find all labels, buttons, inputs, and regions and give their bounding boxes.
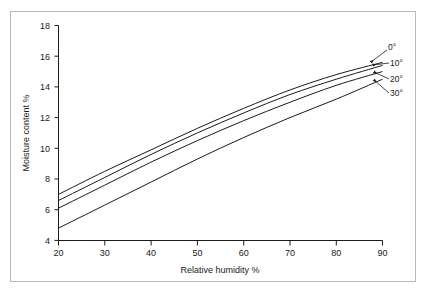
series-annotations: 0° 10° 20° 30° xyxy=(371,42,403,98)
x-tick-label-70: 70 xyxy=(285,248,295,258)
y-axis-tick-labels: 18 16 14 12 10 8 6 4 xyxy=(40,21,50,246)
y-tick-label-18: 18 xyxy=(40,21,50,31)
y-axis-title: Moisture content % xyxy=(21,94,31,171)
y-tick-label-4: 4 xyxy=(45,236,50,246)
x-tick-label-30: 30 xyxy=(100,248,110,258)
x-axis-title: Relative humidity % xyxy=(180,265,259,275)
series-label-30deg: 30° xyxy=(390,88,403,98)
y-tick-label-8: 8 xyxy=(45,174,50,184)
leader-line-30deg xyxy=(374,80,389,93)
series-label-0deg: 0° xyxy=(388,42,396,52)
x-tick-label-60: 60 xyxy=(239,248,249,258)
curve-0deg xyxy=(59,62,383,194)
x-tick-label-80: 80 xyxy=(331,248,341,258)
x-axis-ticks xyxy=(59,241,383,246)
series-label-10deg: 10° xyxy=(390,58,403,68)
leader-line-20deg xyxy=(374,72,389,79)
x-tick-label-50: 50 xyxy=(192,248,202,258)
y-tick-label-16: 16 xyxy=(40,52,50,62)
y-tick-label-6: 6 xyxy=(45,205,50,215)
y-axis-ticks xyxy=(55,26,59,241)
data-curves xyxy=(59,62,383,228)
y-tick-label-14: 14 xyxy=(40,82,50,92)
y-tick-label-12: 12 xyxy=(40,113,50,123)
x-axis-tick-labels: 20 30 40 50 60 70 80 90 xyxy=(53,248,387,258)
moisture-content-vs-relative-humidity-chart: 18 16 14 12 10 8 6 4 20 30 40 50 60 xyxy=(0,0,427,294)
curve-30deg xyxy=(59,79,383,228)
chart-figure: 18 16 14 12 10 8 6 4 20 30 40 50 60 xyxy=(0,0,427,294)
x-tick-label-20: 20 xyxy=(53,248,63,258)
axes xyxy=(59,26,383,241)
y-tick-label-10: 10 xyxy=(40,144,50,154)
curve-20deg xyxy=(59,72,383,209)
leader-line-0deg xyxy=(371,50,387,62)
x-tick-label-90: 90 xyxy=(377,248,387,258)
series-label-20deg: 20° xyxy=(390,74,403,84)
x-tick-label-40: 40 xyxy=(146,248,156,258)
